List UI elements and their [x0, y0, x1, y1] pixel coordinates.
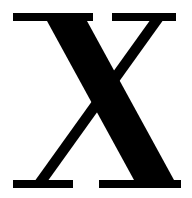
- serif-bottom-left: [13, 180, 73, 188]
- glyph-canvas: [0, 0, 192, 198]
- letter-x-glyph: [0, 0, 192, 198]
- serif-top-left: [13, 13, 93, 21]
- serif-bottom-right: [99, 180, 181, 188]
- serif-top-right: [112, 13, 176, 21]
